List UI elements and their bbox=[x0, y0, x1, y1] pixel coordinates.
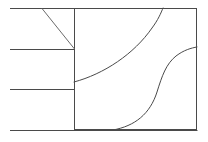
lower-s-curve bbox=[113, 47, 197, 130]
right-panel-rectangle bbox=[75, 9, 197, 130]
line-diagram-svg bbox=[0, 0, 208, 142]
diagonal-segment bbox=[42, 9, 75, 50]
figure-container bbox=[0, 0, 208, 142]
upper-concave-curve bbox=[74, 8, 163, 82]
